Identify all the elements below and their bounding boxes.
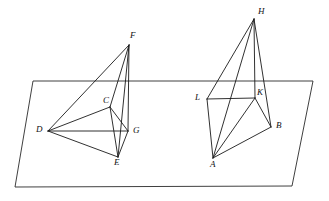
vertex-label-G: G bbox=[133, 126, 140, 135]
edge-CG bbox=[110, 107, 128, 131]
edge-DE bbox=[48, 131, 118, 157]
vertex-label-D: D bbox=[36, 125, 43, 134]
edge-HL bbox=[207, 19, 254, 99]
vertex-label-H: H bbox=[258, 7, 265, 16]
vertex-label-K: K bbox=[257, 88, 263, 97]
vertex-label-L: L bbox=[195, 93, 200, 102]
vertex-label-C: C bbox=[103, 96, 109, 105]
cutting-plane bbox=[15, 81, 313, 187]
vertex-label-F: F bbox=[130, 31, 136, 40]
edge-DC bbox=[48, 107, 110, 131]
geometry-canvas bbox=[0, 0, 329, 201]
edge-FD bbox=[48, 45, 129, 131]
vertex-label-B: B bbox=[276, 121, 282, 130]
edge-LA bbox=[207, 99, 213, 158]
edge-AB bbox=[213, 127, 271, 158]
edge-KA bbox=[213, 98, 255, 158]
geometry-diagram: FCDGEHLKBA bbox=[0, 0, 329, 201]
vertex-label-E: E bbox=[114, 158, 120, 167]
solid-edges-group bbox=[48, 19, 271, 158]
edge-HK bbox=[254, 19, 255, 98]
vertex-label-A: A bbox=[210, 160, 216, 169]
edge-LK bbox=[207, 98, 255, 99]
edge-CE bbox=[110, 107, 118, 157]
edge-HA bbox=[213, 19, 254, 158]
